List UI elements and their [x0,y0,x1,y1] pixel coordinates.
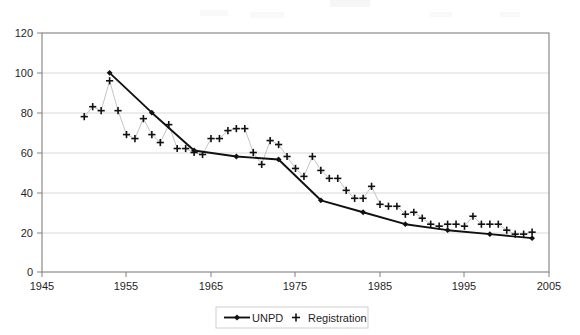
chart-container: 120 100 80 60 40 20 0 1945 1955 1965 197… [0,0,580,335]
scan-artifact [200,0,520,18]
y-tick-label: 80 [21,107,33,119]
legend-label-unpd[interactable]: UNPD [252,312,283,324]
series-markers-registration [81,77,536,238]
y-tick-label: 20 [21,227,33,239]
series-markers-unpd [107,70,535,241]
x-tick-label: 1975 [283,280,307,292]
chart-legend: UNPD Registration [216,307,368,328]
data-series-layer [81,70,536,241]
x-axis-ticks [42,272,549,277]
y-tick-label: 60 [21,147,33,159]
y-tick-label: 0 [27,266,33,278]
x-tick-label: 1965 [199,280,223,292]
y-axis-ticks [37,33,42,272]
series-line-unpd [110,73,532,238]
x-tick-label: 1985 [368,280,392,292]
y-tick-label: 120 [15,27,33,39]
x-tick-label: 1955 [114,280,138,292]
line-chart: 120 100 80 60 40 20 0 1945 1955 1965 197… [0,0,580,335]
x-tick-label: 1945 [30,280,54,292]
x-axis-tick-labels: 1945 1955 1965 1975 1985 1995 2005 [30,280,561,292]
y-axis-tick-labels: 120 100 80 60 40 20 0 [15,27,33,278]
gridlines [42,73,549,233]
x-tick-label: 1995 [452,280,476,292]
series-line-registration [84,81,532,234]
y-tick-label: 100 [15,67,33,79]
y-tick-label: 40 [21,187,33,199]
x-tick-label: 2005 [537,280,561,292]
legend-label-registration[interactable]: Registration [308,312,367,324]
